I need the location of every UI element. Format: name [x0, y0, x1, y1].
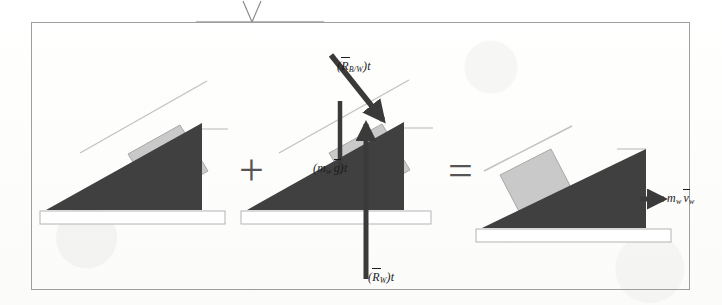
label-close-paren-t: )t — [340, 161, 348, 175]
label-symbol-v: v — [683, 191, 689, 206]
label-subscript-w: w — [676, 197, 682, 206]
impulse-forces-panel: (RB/W)t (mwg)t (RW)t — [237, 23, 447, 291]
label-close-paren-t: )t — [387, 270, 395, 284]
ground-reaction-label: (RW)t — [368, 270, 394, 285]
ground-bar — [241, 211, 431, 224]
label-symbol-R: R — [372, 270, 380, 285]
left-panel-drawing — [32, 23, 237, 291]
label-symbol-g: g — [334, 161, 340, 176]
initial-state-panel — [32, 23, 237, 291]
figure-frame: + — [31, 22, 690, 290]
wedge-weight-label: (mwg)t — [313, 161, 348, 176]
ground-bar — [476, 229, 671, 242]
label-subscript-w: w — [326, 167, 332, 176]
final-momentum-panel: mwvw — [464, 23, 691, 291]
label-symbol-m: m — [667, 191, 676, 205]
wedge-shape — [46, 123, 202, 210]
wedge-momentum-label: mwvw — [667, 191, 695, 206]
reaction-block-on-wedge-label: (RB/W)t — [337, 59, 371, 74]
label-subscript-BW: B/W — [349, 65, 363, 74]
label-subscript-w2: w — [689, 197, 695, 206]
ground-bar — [40, 211, 225, 224]
label-close-paren-t: )t — [363, 59, 371, 73]
label-symbol-R: R — [341, 59, 349, 74]
label-symbol-m: m — [317, 161, 326, 175]
right-panel-drawing — [464, 23, 691, 291]
label-subscript-W: W — [380, 276, 387, 285]
caret-marker-icon — [236, 0, 270, 24]
